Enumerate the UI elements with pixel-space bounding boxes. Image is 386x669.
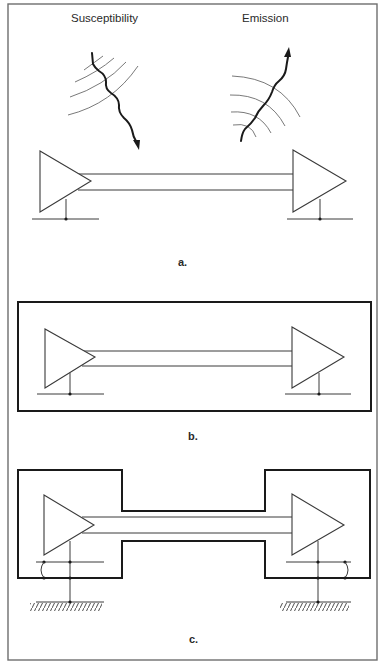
panel-b-label: b. xyxy=(188,430,198,442)
junction-dot xyxy=(343,576,346,579)
susceptibility-label: Susceptibility xyxy=(71,12,138,24)
junction-dot xyxy=(64,217,67,220)
panel-c: c. xyxy=(18,470,370,645)
panel-c-label: c. xyxy=(189,633,198,645)
emission-label: Emission xyxy=(242,12,289,24)
junction-dot xyxy=(42,576,45,579)
incoming-interference-wave-icon xyxy=(68,53,140,150)
junction-dot xyxy=(68,560,71,563)
bond-strap-icon xyxy=(41,562,44,578)
junction-dot xyxy=(318,217,321,220)
earth-ground-right-icon xyxy=(280,600,351,611)
driver-amplifier-icon xyxy=(44,495,94,555)
junction-dot xyxy=(316,560,319,563)
junction-dot xyxy=(68,576,71,579)
junction-dot xyxy=(317,392,320,395)
arrowhead-down-icon xyxy=(133,140,140,150)
panel-a-label: a. xyxy=(178,256,187,268)
bond-strap-icon xyxy=(345,562,348,578)
emi-shielding-diagram: Susceptibility Emission xyxy=(0,0,386,669)
arrowhead-up-icon xyxy=(284,47,291,57)
junction-dot xyxy=(68,392,71,395)
panel-b: b. xyxy=(18,302,371,442)
receiver-amplifier-icon xyxy=(292,327,344,388)
outgoing-emission-wave-icon xyxy=(230,47,300,141)
earth-ground-left-icon xyxy=(30,600,104,611)
junction-dot xyxy=(316,576,319,579)
panel-a: Susceptibility Emission xyxy=(32,12,353,268)
